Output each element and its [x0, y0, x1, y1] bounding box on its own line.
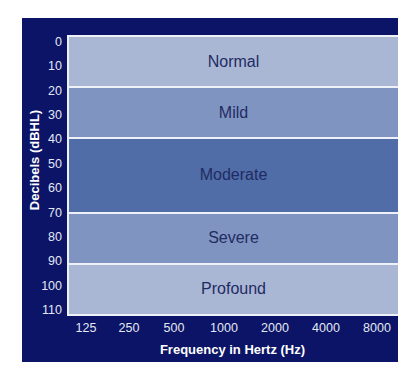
y-tick-label: 100	[22, 279, 62, 293]
x-tick-label: 1000	[199, 321, 249, 335]
y-tick-label: 10	[22, 59, 62, 73]
y-tick-label: 70	[22, 206, 62, 220]
x-tick-label: 8000	[352, 321, 402, 335]
y-tick-label: 80	[22, 230, 62, 244]
plot-area: NormalMildModerateSevereProfound	[67, 35, 398, 316]
x-tick-label: 2000	[250, 321, 300, 335]
x-tick-label: 250	[104, 321, 154, 335]
y-tick-label: 90	[22, 254, 62, 268]
band-label: Severe	[208, 229, 259, 247]
x-axis-label: Frequency in Hertz (Hz)	[67, 342, 398, 357]
band-label: Mild	[219, 104, 248, 122]
band-normal: Normal	[69, 37, 398, 86]
band-label: Normal	[208, 53, 260, 71]
band-moderate: Moderate	[69, 139, 398, 213]
x-tick-label: 4000	[301, 321, 351, 335]
y-tick-label: 40	[22, 132, 62, 146]
band-label: Moderate	[200, 166, 268, 184]
y-tick-label: 20	[22, 84, 62, 98]
y-tick-label: 30	[22, 108, 62, 122]
y-tick-label: 50	[22, 157, 62, 171]
band-profound: Profound	[69, 265, 398, 314]
band-severe: Severe	[69, 214, 398, 262]
y-tick-label: 60	[22, 181, 62, 195]
x-tick-label: 500	[149, 321, 199, 335]
band-label: Profound	[201, 280, 266, 298]
band-mild: Mild	[69, 88, 398, 136]
chart-frame: Decibels (dBHL) NormalMildModerateSevere…	[22, 18, 398, 362]
y-tick-label: 0	[22, 35, 62, 49]
y-tick-label: 110	[22, 303, 62, 317]
